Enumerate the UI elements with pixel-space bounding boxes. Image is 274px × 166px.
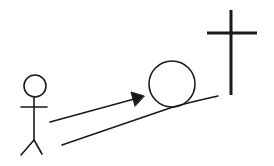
stick-figure-head [24,75,46,97]
diagram-canvas: line-drawing [0,0,274,166]
boulder [149,61,195,107]
stick-figure-right-leg [34,140,42,154]
cross [207,10,257,95]
stick-figure-left-leg [21,140,34,155]
arrow [50,92,144,122]
arrow-shaft [50,98,138,122]
slope-line [62,96,218,145]
stick-figure [21,75,47,155]
arrow-head-icon [131,92,144,106]
diagram-svg [0,0,274,166]
